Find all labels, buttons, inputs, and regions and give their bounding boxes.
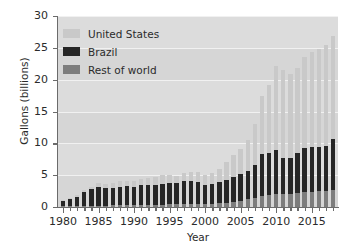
legend-label-brazil: Brazil bbox=[88, 46, 117, 58]
bar-segment bbox=[182, 181, 186, 204]
bar-segment bbox=[139, 179, 143, 185]
legend-item-rest-of-world: Rest of world bbox=[63, 62, 159, 77]
bar-2001 bbox=[210, 173, 214, 207]
bar-segment bbox=[68, 198, 72, 199]
bar-segment bbox=[288, 74, 292, 159]
bar-2016 bbox=[317, 49, 321, 207]
bar-segment bbox=[132, 187, 136, 205]
bar-segment bbox=[96, 183, 100, 187]
bar-1985 bbox=[96, 183, 100, 207]
bar-segment bbox=[310, 147, 314, 192]
x-axis-tick bbox=[305, 208, 306, 211]
bar-segment bbox=[111, 188, 115, 205]
bar-segment bbox=[174, 183, 178, 204]
bar-segment bbox=[167, 175, 171, 184]
bar-2005 bbox=[238, 149, 242, 207]
bar-1981 bbox=[68, 198, 72, 207]
y-axis-tick-label: 25 bbox=[18, 41, 48, 54]
bar-segment bbox=[68, 199, 72, 206]
bar-segment bbox=[89, 189, 93, 206]
bar-2003 bbox=[224, 162, 228, 207]
bar-segment bbox=[331, 36, 335, 139]
bar-segment bbox=[217, 169, 221, 183]
bar-1999 bbox=[196, 172, 200, 207]
bar-segment bbox=[217, 182, 221, 203]
bar-segment bbox=[82, 192, 86, 206]
bar-segment bbox=[317, 147, 321, 192]
chart-legend: United States Brazil Rest of world bbox=[63, 26, 159, 80]
x-axis-tick bbox=[212, 208, 213, 211]
x-axis-tick-label: 1980 bbox=[43, 215, 83, 228]
legend-label-united-states: United States bbox=[88, 28, 159, 40]
bar-1992 bbox=[146, 178, 150, 207]
x-axis-tick bbox=[219, 208, 220, 211]
bar-segment bbox=[203, 175, 207, 185]
bar-segment bbox=[246, 140, 250, 171]
bar-segment bbox=[160, 184, 164, 205]
bar-1995 bbox=[167, 175, 171, 207]
x-axis-tick bbox=[205, 208, 206, 213]
x-axis-tick-label: 2005 bbox=[221, 215, 261, 228]
bar-segment bbox=[267, 85, 271, 152]
bar-1994 bbox=[160, 175, 164, 207]
bar-2014 bbox=[302, 57, 306, 207]
bar-segment bbox=[253, 124, 257, 165]
legend-swatch-rest-of-world bbox=[63, 65, 80, 74]
bar-1987 bbox=[111, 183, 115, 207]
bar-segment bbox=[295, 68, 299, 153]
bar-segment bbox=[153, 185, 157, 205]
bar-segment bbox=[246, 171, 250, 200]
bar-2004 bbox=[231, 155, 235, 207]
x-axis-tick bbox=[148, 208, 149, 211]
bar-segment bbox=[210, 184, 214, 203]
legend-swatch-brazil bbox=[63, 47, 80, 56]
y-axis-tick bbox=[53, 175, 57, 176]
bar-2015 bbox=[310, 52, 314, 207]
bar-segment bbox=[274, 150, 278, 194]
x-axis-tick bbox=[198, 208, 199, 211]
bar-segment bbox=[324, 146, 328, 191]
y-axis-tick bbox=[53, 48, 57, 49]
bar-segment bbox=[189, 172, 193, 181]
bar-segment bbox=[103, 184, 107, 189]
bar-segment bbox=[125, 181, 129, 187]
x-axis-tick bbox=[99, 208, 100, 213]
legend-swatch-united-states bbox=[63, 29, 80, 38]
bar-1984 bbox=[89, 187, 93, 207]
x-axis-tick bbox=[276, 208, 277, 213]
bar-segment bbox=[260, 154, 264, 195]
x-axis-tick bbox=[326, 208, 327, 211]
y-axis-tick bbox=[53, 143, 57, 144]
legend-item-brazil: Brazil bbox=[63, 44, 159, 59]
x-axis-tick bbox=[84, 208, 85, 211]
bar-segment bbox=[224, 180, 228, 202]
bar-segment bbox=[118, 181, 122, 186]
bar-segment bbox=[324, 191, 328, 207]
bar-1983 bbox=[82, 190, 86, 207]
x-axis-tick-label: 2015 bbox=[292, 215, 332, 228]
bar-2006 bbox=[246, 140, 250, 207]
bar-2008 bbox=[260, 96, 264, 207]
x-axis-tick bbox=[319, 208, 320, 211]
gridline bbox=[58, 16, 338, 17]
x-axis-tick bbox=[312, 208, 313, 213]
bar-segment bbox=[281, 70, 285, 158]
bar-segment bbox=[61, 200, 65, 201]
bar-segment bbox=[167, 183, 171, 204]
chart-figure: Gallons (billions) Year United States Br… bbox=[0, 0, 351, 252]
bar-segment bbox=[75, 195, 79, 197]
bar-segment bbox=[238, 149, 242, 174]
bar-segment bbox=[317, 191, 321, 207]
x-axis-tick bbox=[269, 208, 270, 211]
bar-segment bbox=[295, 193, 299, 207]
x-axis-tick bbox=[141, 208, 142, 211]
bar-segment bbox=[238, 174, 242, 201]
x-axis-tick bbox=[106, 208, 107, 211]
y-axis-tick bbox=[53, 16, 57, 17]
x-axis-tick bbox=[91, 208, 92, 211]
x-axis-tick-label: 1995 bbox=[150, 215, 190, 228]
x-axis-tick bbox=[333, 208, 334, 211]
bar-segment bbox=[96, 187, 100, 205]
y-axis-tick-label: 0 bbox=[18, 200, 48, 213]
bar-1988 bbox=[118, 181, 122, 207]
